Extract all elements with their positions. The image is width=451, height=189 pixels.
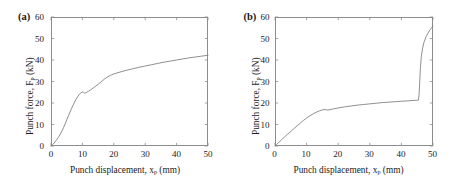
panel-a-plot-svg bbox=[0, 0, 225, 189]
panel-b-plot-svg bbox=[226, 0, 451, 189]
panel-a: (a) Punch force, Fp (kN) 60 50 40 30 20 … bbox=[0, 0, 226, 189]
panel-b: (b) Punch force, Fp (kN) 60 50 40 30 20 … bbox=[226, 0, 451, 189]
figure-root: (a) Punch force, Fp (kN) 60 50 40 30 20 … bbox=[0, 0, 451, 189]
data-curve bbox=[275, 26, 433, 146]
data-curve bbox=[51, 55, 208, 146]
